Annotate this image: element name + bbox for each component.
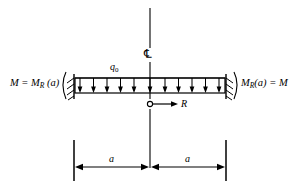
load-arrow-head-7 <box>163 86 168 93</box>
left-fixed-support <box>63 72 74 100</box>
moment-label-right-lead: M <box>241 77 250 88</box>
dimension-arrowhead-left-start <box>75 164 83 171</box>
reaction-label: R <box>181 99 187 109</box>
load-arrow-head-8 <box>176 86 181 93</box>
left-support-hatch-4 <box>68 96 74 100</box>
right-fixed-support <box>226 72 237 100</box>
left-support-hatch-3 <box>67 90 74 95</box>
distributed-load-label: q0 <box>110 62 119 74</box>
reaction-arrow-head <box>171 101 178 106</box>
moment-label-left: M = MR (a) <box>10 78 59 89</box>
left-moment-arc <box>63 72 66 99</box>
dimension-label-left: a <box>109 154 114 164</box>
pin-hinge-circle <box>147 101 152 106</box>
dimension-arrowhead-right-end <box>217 164 225 171</box>
load-arrow-head-3 <box>105 86 110 93</box>
right-support-hatch-4 <box>226 96 232 100</box>
left-support-hatch-1 <box>67 78 74 83</box>
right-moment-arc <box>234 72 237 99</box>
distributed-load-arrows <box>75 78 225 93</box>
load-arrow-head-9 <box>190 86 195 93</box>
load-arrow-head-5 <box>132 86 137 93</box>
diagram-canvas <box>0 0 298 187</box>
load-arrow-head-2 <box>91 86 96 93</box>
distributed-load-subscript: 0 <box>115 66 119 74</box>
reaction-force-group <box>147 101 178 106</box>
moment-label-right-tail: (a) = M <box>254 77 287 88</box>
moment-label-left-tail: (a) <box>44 77 59 88</box>
load-arrow-head-11 <box>217 86 222 93</box>
right-support-hatch-1 <box>226 78 233 83</box>
load-arrow-head-10 <box>203 86 208 93</box>
dimension-arrowhead-right-start <box>151 164 159 171</box>
right-support-hatch-2 <box>226 84 233 89</box>
centerline-symbol: ℄ <box>144 48 152 60</box>
moment-label-left-lead: M = M <box>10 77 40 88</box>
dimension-label-right: a <box>185 154 190 164</box>
load-arrow-head-4 <box>118 86 123 93</box>
dimension-arrowhead-left-end <box>141 164 149 171</box>
load-arrow-head-1 <box>78 86 83 93</box>
left-support-hatch-2 <box>67 84 74 89</box>
moment-label-right: MR(a) = M <box>241 78 288 89</box>
right-support-hatch-3 <box>226 90 233 95</box>
beam-diagram-figure: M = MR (a) MR(a) = M q0 R ℄ a a <box>0 0 298 187</box>
load-arrow-head-6 <box>148 86 153 93</box>
